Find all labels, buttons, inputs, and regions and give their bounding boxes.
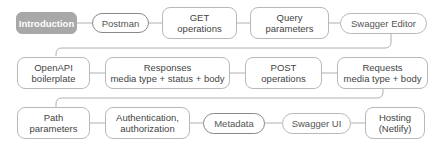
node-postman[interactable]: Postman	[92, 13, 149, 33]
node-swagger-ui[interactable]: Swagger UI	[282, 113, 351, 134]
node-swagger-editor[interactable]: Swagger Editor	[340, 13, 427, 34]
node-requests[interactable]: Requests media type + body	[337, 57, 428, 89]
node-introduction[interactable]: Introduction	[16, 12, 77, 34]
node-hosting[interactable]: Hosting (Netlify)	[365, 107, 425, 139]
node-get-operations[interactable]: GET operations	[162, 7, 237, 39]
node-openapi-boilerplate[interactable]: OpenAPI boilerplate	[17, 57, 90, 89]
node-post-operations[interactable]: POST operations	[245, 57, 322, 89]
node-query-parameters[interactable]: Query parameters	[250, 7, 329, 39]
node-authentication[interactable]: Authentication, authorization	[105, 107, 190, 139]
node-path-parameters[interactable]: Path parameters	[17, 107, 90, 139]
node-responses[interactable]: Responses media type + status + body	[105, 57, 230, 89]
node-metadata[interactable]: Metadata	[203, 113, 265, 134]
